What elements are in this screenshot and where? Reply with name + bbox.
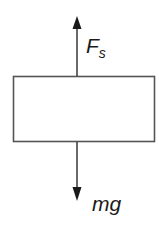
spring-force-label-subscript: s [99,45,106,61]
spring-force-label-main: F [86,34,99,57]
arrowhead-up-icon [73,16,82,29]
spring-force-arrow [73,16,82,76]
arrowhead-down-icon [73,187,82,201]
body-block [14,77,155,142]
gravity-force-label: mg [92,193,121,214]
gravity-force-arrow [73,142,82,201]
diagram-canvas [0,0,159,229]
spring-force-label: Fs [86,35,106,56]
free-body-diagram: Fs mg [0,0,159,229]
